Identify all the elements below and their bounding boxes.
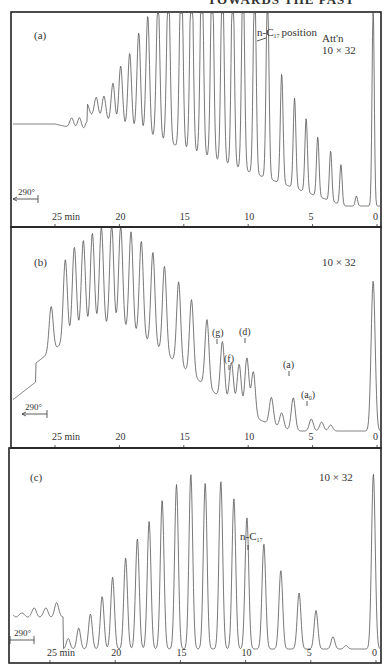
- panel-b: (b) 10 × 32 (g)(f)(d)(a)(a0) 290° 25 min…: [11, 227, 381, 448]
- x-tick-label: 10: [244, 211, 254, 222]
- attenuation-label-a: Att'n: [322, 32, 344, 44]
- x-tick-label: 5: [307, 647, 312, 658]
- x-tick-label: 5: [309, 431, 314, 442]
- x-tick-label: 15: [180, 431, 190, 442]
- x-tick-label: 15: [176, 647, 186, 658]
- peak-marker-label: (f): [224, 353, 234, 365]
- temp-arrow-a: 290°: [13, 187, 38, 203]
- n-c17-label: n-C17: [240, 530, 263, 543]
- x-tick-label: 10: [242, 647, 252, 658]
- peak-marker-label: (a): [283, 359, 294, 371]
- trace-c: [13, 474, 380, 649]
- x-tick-label: 0: [373, 211, 378, 222]
- peak-marker-label: (a0): [301, 389, 315, 401]
- x-tick-label: 0: [372, 647, 377, 658]
- temp-arrow-b: 290°: [22, 402, 47, 418]
- x-tick-label: 25 min: [52, 431, 80, 442]
- x-tick-label: 20: [115, 431, 125, 442]
- x-tick-label: 25 min: [47, 647, 75, 658]
- x-tick-label: 20: [111, 647, 121, 658]
- svg-text:290°: 290°: [25, 402, 43, 412]
- peak-marker-label: (g): [212, 327, 224, 339]
- attenuation-value-c: 10 × 32: [319, 471, 353, 483]
- x-tick-label: 5: [309, 211, 314, 222]
- attenuation-value-a: 10 × 32: [322, 44, 356, 56]
- panel-label-a: (a): [34, 29, 47, 42]
- n-c17-position-label: n-C17position: [257, 26, 317, 39]
- x-tick-label: 15: [180, 211, 190, 222]
- x-tick-label: 25 min: [52, 211, 80, 222]
- panel-label-c: (c): [30, 471, 43, 484]
- panel-label-b: (b): [34, 256, 47, 269]
- panel-c: (c) 10 × 32 n-C17 290° 25 min20151050: [9, 448, 381, 663]
- x-tick-label: 10: [244, 431, 254, 442]
- svg-text:290°: 290°: [18, 187, 36, 197]
- chromatogram-figure: (a) n-C17position Att'n 10 × 32 290° 25 …: [0, 0, 390, 672]
- panel-a: (a) n-C17position Att'n 10 × 32 290° 25 …: [11, 12, 381, 227]
- temp-arrow-c: 290°: [10, 628, 34, 644]
- svg-text:290°: 290°: [14, 628, 32, 638]
- attenuation-value-b: 10 × 32: [322, 256, 356, 268]
- x-tick-label: 20: [115, 211, 125, 222]
- x-tick-label: 0: [373, 431, 378, 442]
- peak-marker-label: (d): [239, 326, 251, 338]
